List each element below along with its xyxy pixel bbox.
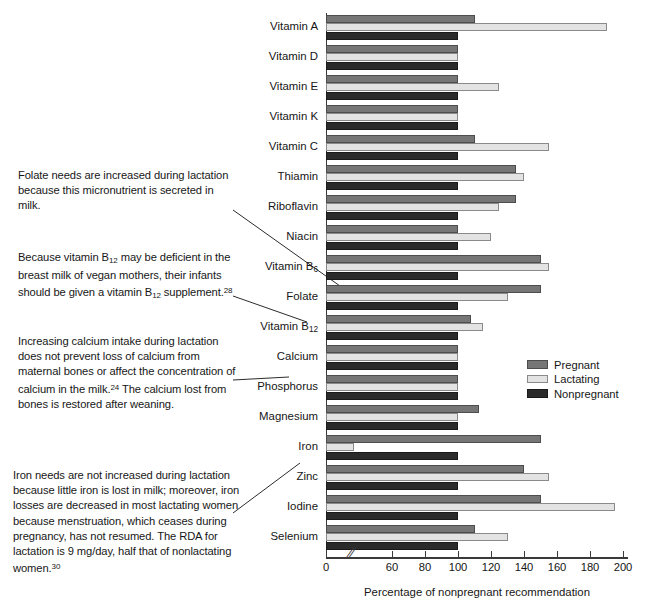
x-axis-tick-label: 160 xyxy=(548,561,567,573)
category-label: Folate xyxy=(0,290,318,302)
bar-nonpregnant xyxy=(326,272,458,280)
bar-nonpregnant xyxy=(326,392,458,400)
bar-pregnant xyxy=(326,225,458,233)
x-axis-tick-label: 180 xyxy=(581,561,600,573)
chart-legend: PregnantLactatingNonpregnant xyxy=(527,358,619,402)
category-label: Vitamin B6 xyxy=(0,260,318,274)
chart-figure: Folate needs are increased during lactat… xyxy=(0,0,647,612)
bar-pregnant xyxy=(326,75,458,83)
x-axis-tick xyxy=(557,551,558,557)
x-axis-tick xyxy=(590,551,591,557)
bar-group xyxy=(326,315,628,345)
bar-nonpregnant xyxy=(326,482,458,490)
x-axis-tick-label: 140 xyxy=(515,561,534,573)
bar-pregnant xyxy=(326,105,458,113)
x-axis-tick xyxy=(392,551,393,557)
category-label: Phosphorus xyxy=(0,380,318,392)
bar-group xyxy=(326,435,628,465)
bar-lactating xyxy=(326,293,508,301)
bar-lactating xyxy=(326,143,549,151)
bar-nonpregnant xyxy=(326,332,458,340)
bar-pregnant xyxy=(326,405,479,413)
plot-area xyxy=(326,13,628,557)
bar-lactating xyxy=(326,353,458,361)
category-label: Vitamin K xyxy=(0,110,318,122)
bar-group xyxy=(326,195,628,225)
bar-lactating xyxy=(326,233,491,241)
bar-nonpregnant xyxy=(326,512,458,520)
x-axis-tick-label: 120 xyxy=(482,561,501,573)
x-axis-line xyxy=(326,557,628,559)
x-axis-tick xyxy=(425,551,426,557)
category-label: Riboflavin xyxy=(0,200,318,212)
legend-swatch-pregnant xyxy=(527,360,548,369)
bar-group xyxy=(326,285,628,315)
category-label: Niacin xyxy=(0,230,318,242)
x-axis-tick-label: 80 xyxy=(419,561,431,573)
bar-group xyxy=(326,165,628,195)
bar-pregnant xyxy=(326,255,541,263)
bar-pregnant xyxy=(326,345,458,353)
bar-pregnant xyxy=(326,465,524,473)
category-label: Thiamin xyxy=(0,170,318,182)
x-axis-tick-label: 100 xyxy=(449,561,468,573)
bar-nonpregnant xyxy=(326,92,458,100)
x-axis-tick xyxy=(524,551,525,557)
bar-group xyxy=(326,495,628,525)
category-label: Zinc xyxy=(0,470,318,482)
bar-lactating xyxy=(326,83,499,91)
bar-nonpregnant xyxy=(326,62,458,70)
bar-nonpregnant xyxy=(326,32,458,40)
x-axis-tick xyxy=(326,551,327,557)
x-axis: // 06080100120140160180200 xyxy=(326,557,628,559)
category-label: Iodine xyxy=(0,500,318,512)
x-axis-title: Percentage of nonpregnant recommendation xyxy=(326,586,628,598)
bar-group xyxy=(326,105,628,135)
x-axis-tick-label: 0 xyxy=(323,561,329,573)
x-axis-tick xyxy=(458,551,459,557)
bar-nonpregnant xyxy=(326,122,458,130)
legend-item: Pregnant xyxy=(527,358,619,371)
bar-group xyxy=(326,465,628,495)
bar-group xyxy=(326,225,628,255)
x-axis-tick-label: 60 xyxy=(386,561,398,573)
bar-pregnant xyxy=(326,495,541,503)
category-label: Vitamin D xyxy=(0,50,318,62)
category-label: Vitamin A xyxy=(0,20,318,32)
bar-nonpregnant xyxy=(326,422,458,430)
bar-pregnant xyxy=(326,375,458,383)
bar-group xyxy=(326,405,628,435)
bar-group xyxy=(326,255,628,285)
category-label: Magnesium xyxy=(0,410,318,422)
legend-label: Lactating xyxy=(554,373,599,385)
bar-group xyxy=(326,15,628,45)
legend-swatch-nonpregnant xyxy=(527,389,548,398)
bar-nonpregnant xyxy=(326,542,458,550)
annotation-calcium: Increasing calcium intake during lactati… xyxy=(18,334,240,412)
bar-lactating xyxy=(326,413,458,421)
bar-pregnant xyxy=(326,15,475,23)
bar-pregnant xyxy=(326,435,541,443)
legend-item: Lactating xyxy=(527,373,619,386)
bar-group xyxy=(326,525,628,555)
legend-label: Nonpregnant xyxy=(554,388,619,400)
bar-nonpregnant xyxy=(326,452,458,460)
bar-lactating xyxy=(326,383,458,391)
bar-lactating xyxy=(326,443,354,451)
bar-lactating xyxy=(326,113,458,121)
bar-lactating xyxy=(326,503,615,511)
bar-nonpregnant xyxy=(326,242,458,250)
bar-nonpregnant xyxy=(326,182,458,190)
bar-nonpregnant xyxy=(326,362,458,370)
annotation-iron: Iron needs are not increased during lact… xyxy=(13,468,245,577)
bar-nonpregnant xyxy=(326,152,458,160)
bar-lactating xyxy=(326,323,483,331)
category-label: Selenium xyxy=(0,530,318,542)
category-label: Vitamin B12 xyxy=(0,320,318,334)
bar-lactating xyxy=(326,533,508,541)
category-label: Calcium xyxy=(0,350,318,362)
bar-pregnant xyxy=(326,195,516,203)
category-label: Vitamin E xyxy=(0,80,318,92)
bar-group xyxy=(326,45,628,75)
bar-group xyxy=(326,135,628,165)
